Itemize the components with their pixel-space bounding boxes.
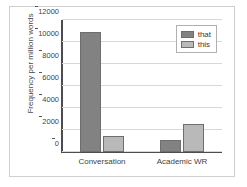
y-tick-mark xyxy=(52,138,55,139)
y-tick-label: 4000 xyxy=(42,95,62,104)
y-tick-mark xyxy=(39,72,42,73)
legend-swatch-that-icon xyxy=(181,31,194,38)
x-tick-label: Conversation xyxy=(78,157,125,166)
plot-area: 0 2000 4000 6000 8000 10000 12000 Conver… xyxy=(62,20,222,152)
y-axis-title: Frequency per million words xyxy=(26,5,35,123)
bar-this-academic-wr xyxy=(183,124,205,152)
y-tick-label: 10000 xyxy=(38,29,62,38)
legend-entry-this[interactable]: this xyxy=(181,39,211,49)
chart-canvas: Frequency per million words 0 2000 4000 … xyxy=(10,7,234,176)
y-tick-mark xyxy=(35,28,38,29)
bar-that-academic-wr xyxy=(160,140,182,152)
y-tick-label: 6000 xyxy=(42,73,62,82)
y-tick-label: 2000 xyxy=(42,117,62,126)
y-tick-mark xyxy=(39,116,42,117)
chart-figure-frame: Frequency per million words 0 2000 4000 … xyxy=(9,6,235,177)
bar-that-conversation xyxy=(80,32,102,152)
x-tick-label: Academic WR xyxy=(157,157,208,166)
bar-this-conversation xyxy=(103,136,125,153)
y-tick-mark xyxy=(35,6,38,7)
y-tick-mark xyxy=(39,94,42,95)
chart-legend: that this xyxy=(176,25,217,53)
y-tick-label: 8000 xyxy=(42,51,62,60)
legend-label-this: this xyxy=(198,40,210,49)
legend-entry-that[interactable]: that xyxy=(181,29,211,39)
legend-label-that: that xyxy=(198,30,211,39)
y-tick-label: 0 xyxy=(55,139,62,148)
legend-swatch-this-icon xyxy=(181,41,194,48)
y-tick-mark xyxy=(39,50,42,51)
y-tick-label: 12000 xyxy=(38,7,62,16)
